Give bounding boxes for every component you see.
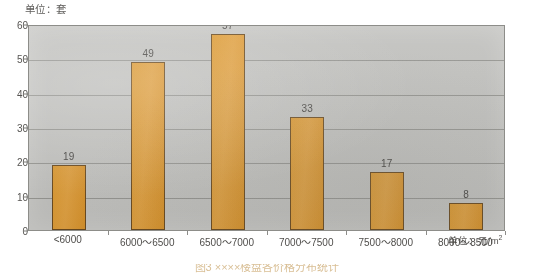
x-axis-unit-value: 元/m xyxy=(478,235,499,246)
x-axis-tick-label: 7500～8000 xyxy=(343,234,429,249)
bar-slot: 8 xyxy=(427,25,506,230)
x-axis-tick-label: 6000～6500 xyxy=(104,234,190,249)
x-axis-tick-label: 7000～7500 xyxy=(263,234,349,249)
bar-value-label: 33 xyxy=(277,103,337,114)
x-axis-tick-mark xyxy=(505,231,506,235)
figure-caption-clip: 图3 ××××楼盘各价格分布统计 xyxy=(0,264,534,276)
bar-value-label: 57 xyxy=(198,25,258,31)
plot-area: 19495733178 xyxy=(28,25,505,231)
bar[interactable] xyxy=(211,34,245,230)
bar-value-label: 19 xyxy=(39,151,99,162)
x-axis-unit-prefix: 单位： xyxy=(448,235,478,246)
bar-slot: 19 xyxy=(29,25,109,230)
figure-caption: 图3 ××××楼盘各价格分布统计 xyxy=(0,264,534,274)
bar-value-label: 49 xyxy=(118,48,178,59)
x-axis-tick-label: 6500～7000 xyxy=(184,234,270,249)
x-axis-tick-label: <6000 xyxy=(25,234,111,245)
y-axis-unit-label: 单位：套 xyxy=(25,1,67,16)
bar-slot: 57 xyxy=(188,25,268,230)
x-axis-unit-exponent: 2 xyxy=(499,234,503,241)
bar-slot: 33 xyxy=(268,25,348,230)
bar[interactable] xyxy=(131,62,165,230)
bar-series: 19495733178 xyxy=(29,26,504,230)
bar-value-label: 17 xyxy=(357,158,417,169)
bar[interactable] xyxy=(52,165,86,230)
bar[interactable] xyxy=(449,203,483,230)
bar[interactable] xyxy=(290,117,324,230)
bar-slot: 17 xyxy=(347,25,427,230)
bar-chart-figure: 单位：套 6050403020100 19495733178 <60006000… xyxy=(0,0,534,276)
bar-value-label: 8 xyxy=(436,189,496,200)
bar-slot: 49 xyxy=(109,25,189,230)
bar[interactable] xyxy=(370,172,404,230)
y-axis: 6050403020100 xyxy=(0,25,28,231)
x-axis-unit-label: 单位：元/m2 xyxy=(448,233,502,247)
